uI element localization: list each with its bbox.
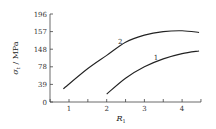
y-axis-title: σt / MPa (11, 41, 21, 74)
x-tick-label: 2 (104, 105, 108, 113)
x-tick-label: 4 (180, 105, 185, 113)
y-tick-label: 196 (34, 11, 48, 19)
x-ticks: 1234 (50, 99, 201, 113)
x-axis-title: R1 (115, 114, 125, 124)
y-tick-label: 148 (34, 46, 47, 54)
curve-2 (63, 31, 199, 89)
y-tick-label: 78 (38, 63, 47, 71)
y-tick-label: 157 (34, 28, 47, 36)
y-tick-label: 0 (43, 99, 47, 107)
x-tick-label: 1 (67, 105, 71, 113)
curves: 12 (63, 31, 199, 94)
y-tick-label: 39 (38, 81, 47, 89)
line-chart: 03978148157196 1234 12 σt / MPa R1 (0, 0, 216, 129)
curve-label-1: 1 (154, 54, 158, 62)
axes (50, 14, 201, 102)
x-tick-label: 3 (142, 105, 146, 113)
curve-label-2: 2 (118, 38, 122, 46)
